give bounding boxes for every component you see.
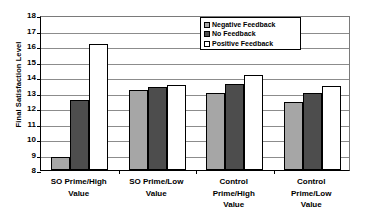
- x-axis-category-label-line: SO Prime/Low: [118, 176, 196, 188]
- bar[interactable]: [284, 102, 303, 170]
- x-axis-tick-mark: [119, 170, 120, 174]
- y-axis-tick-label: 13: [14, 90, 36, 98]
- bar[interactable]: [206, 93, 225, 170]
- y-axis-tick-label: 10: [14, 136, 36, 144]
- x-axis-tick-mark: [274, 170, 275, 174]
- x-axis-category-label-line: Value: [118, 188, 196, 200]
- legend-item[interactable]: No Feedback: [204, 30, 300, 39]
- x-axis-category-label-line: Value: [40, 188, 118, 200]
- bar[interactable]: [51, 157, 70, 170]
- legend-label: Negative Feedback: [212, 21, 275, 29]
- legend-swatch-icon: [204, 22, 210, 28]
- bar[interactable]: [225, 84, 244, 170]
- bar-group: [119, 17, 197, 170]
- chart-legend: Negative FeedbackNo FeedbackPositive Fee…: [200, 17, 301, 50]
- bar-group: [41, 17, 119, 170]
- x-axis-category-label: SO Prime/HighValue: [40, 176, 118, 199]
- bar[interactable]: [129, 90, 148, 170]
- plot-area: [40, 16, 350, 171]
- x-axis-category-label-line: SO Prime/High: [40, 176, 118, 188]
- bar-chart: Final Satisfaction Level 181716151413121…: [0, 0, 365, 223]
- x-axis-category-label: ControlPrime/HighValue: [195, 176, 273, 211]
- x-axis-category-labels: SO Prime/HighValueSO Prime/LowValueContr…: [40, 176, 350, 222]
- bar[interactable]: [89, 44, 108, 170]
- x-axis-tick-mark: [196, 170, 197, 174]
- y-axis-tick-label: 9: [14, 152, 36, 160]
- x-axis-category-label: SO Prime/LowValue: [118, 176, 196, 199]
- y-axis-tick-label: 15: [14, 59, 36, 67]
- y-axis-tick-label: 17: [14, 28, 36, 36]
- y-axis-tick-label: 12: [14, 105, 36, 113]
- y-axis-tick-mark: [37, 172, 41, 173]
- y-axis-tick-labels: 18171615141312111098: [14, 16, 36, 171]
- bar[interactable]: [70, 100, 89, 170]
- legend-label: No Feedback: [212, 30, 256, 38]
- y-axis-tick-label: 11: [14, 121, 36, 129]
- bar[interactable]: [148, 87, 167, 170]
- x-axis-category-label-line: Control: [273, 176, 351, 188]
- legend-swatch-icon: [204, 31, 210, 37]
- y-axis-tick-label: 18: [14, 12, 36, 20]
- y-axis-tick-label: 16: [14, 43, 36, 51]
- y-axis-tick-label: 8: [14, 167, 36, 175]
- bar[interactable]: [322, 86, 341, 170]
- bar[interactable]: [244, 75, 263, 170]
- legend-swatch-icon: [204, 41, 210, 47]
- bar[interactable]: [303, 93, 322, 170]
- x-axis-category-label-line: Prime/High: [195, 188, 273, 200]
- x-axis-category-label-line: Prime/Low: [273, 188, 351, 200]
- legend-item[interactable]: Positive Feedback: [204, 39, 300, 48]
- x-axis-category-label-line: Control: [195, 176, 273, 188]
- legend-label: Positive Feedback: [212, 40, 273, 48]
- bar[interactable]: [167, 85, 186, 170]
- legend-item[interactable]: Negative Feedback: [204, 20, 300, 29]
- x-axis-category-label-line: Value: [195, 199, 273, 211]
- x-axis-category-label: ControlPrime/LowValue: [273, 176, 351, 211]
- x-axis-category-label-line: Value: [273, 199, 351, 211]
- y-axis-tick-label: 14: [14, 74, 36, 82]
